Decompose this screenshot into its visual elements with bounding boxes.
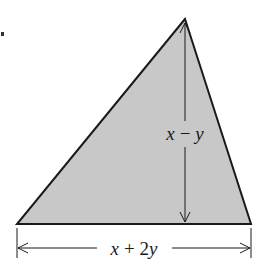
triangle-shape — [17, 19, 251, 224]
height-label: x−y — [165, 123, 204, 144]
triangle-diagram: x−y x+2y — [0, 0, 267, 268]
base-label: x+2y — [109, 238, 158, 259]
stray-mark — [1, 32, 4, 36]
